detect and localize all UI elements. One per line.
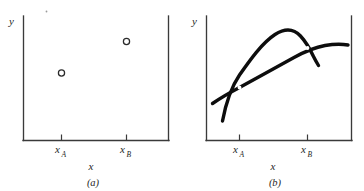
panel-a-ticklabel-xa: x A [54,143,67,159]
panel-b-x-axis-label: x [270,160,276,172]
panel-a-plot: y x A x B x [0,0,182,191]
toner-speck [46,11,48,13]
panel-b-plot: y x A x B [182,0,364,191]
panel-a: y x A x B x [0,0,182,191]
panel-a-ticklabel-xb: x B [119,143,132,159]
panel-b-curve-flat-rising [213,44,349,103]
figure-container: y x A x B x [0,0,364,191]
panel-b-caption: (b) [269,177,282,189]
panel-b: y x A x B [182,0,364,191]
panel-a-data-point-a [58,70,64,76]
svg-text:x: x [119,143,125,155]
panel-b-curve-steep-arc [223,30,319,121]
svg-text:x: x [54,143,60,155]
svg-text:A: A [61,150,67,159]
svg-text:B: B [127,150,132,159]
svg-text:x: x [300,143,306,155]
panel-b-y-axis-label: y [191,15,197,27]
panel-b-ticklabel-xb: x B [300,143,313,159]
panel-a-y-axis-label: y [8,15,14,27]
panel-a-x-axis-label: x [88,160,94,172]
panel-a-data-point-b [123,38,129,44]
panel-b-intersection-xa [238,86,242,90]
panel-b-intersection-xb [306,46,310,50]
svg-text:B: B [308,150,313,159]
panel-b-ticklabel-xa: x A [232,143,245,159]
panel-a-caption: (a) [87,177,100,189]
svg-text:x: x [232,143,238,155]
svg-text:A: A [239,150,245,159]
